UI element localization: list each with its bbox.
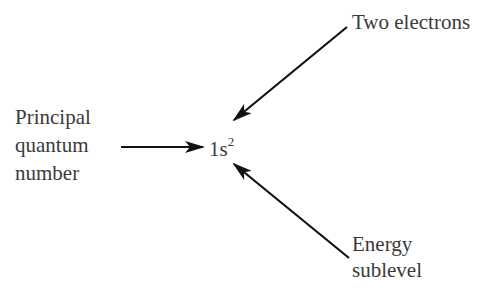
sublevel-label-line-2: sublevel	[352, 257, 422, 283]
configuration-superscript: 2	[228, 134, 235, 149]
two-electrons-label: Two electrons	[352, 8, 470, 36]
electron-configuration-diagram: 1s2 Principal quantum number Two electro…	[0, 0, 496, 298]
electrons-arrow	[234, 27, 347, 120]
principal-label-line-2: quantum	[15, 131, 91, 159]
sublevel-arrow	[234, 164, 349, 258]
sublevel-label-line-1: Energy	[352, 231, 422, 257]
configuration-label: 1s2	[209, 136, 234, 162]
principal-label-line-1: Principal	[15, 103, 91, 131]
energy-sublevel-label: Energy sublevel	[352, 231, 422, 283]
principal-quantum-number-label: Principal quantum number	[15, 103, 91, 187]
principal-label-line-3: number	[15, 159, 91, 187]
configuration-base: 1s	[209, 137, 228, 161]
